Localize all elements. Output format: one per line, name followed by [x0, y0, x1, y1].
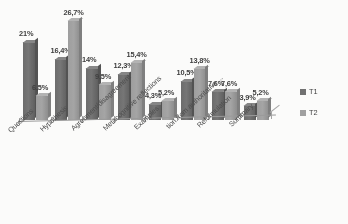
- legend-item-t2[interactable]: T2: [300, 109, 318, 116]
- bar-t2[interactable]: [68, 21, 80, 120]
- data-label: 26,7%: [64, 8, 84, 17]
- data-label: 5,2%: [253, 88, 269, 97]
- bar-group: 21%6,5%: [20, 16, 52, 120]
- legend-item-t1[interactable]: T1: [300, 88, 318, 95]
- bar-group: 4,3%5,2%: [146, 16, 178, 120]
- data-label: 5,2%: [158, 88, 174, 97]
- bar-t2[interactable]: [36, 96, 48, 120]
- plot-area: 21%6,5%16,4%26,7%14%9,5%12,3%15,4%4,3%5,…: [20, 16, 272, 120]
- data-label: 6,5%: [32, 83, 48, 92]
- bar-rect: [257, 101, 269, 120]
- bar-chart: 21%6,5%16,4%26,7%14%9,5%12,3%15,4%4,3%5,…: [0, 0, 348, 224]
- bar-rect: [68, 21, 80, 120]
- legend-item-label: T2: [309, 109, 318, 116]
- data-label: 15,4%: [127, 50, 147, 59]
- legend-item-label: T1: [309, 88, 318, 95]
- square-swatch-icon: [300, 110, 306, 116]
- bar-group: 16,4%26,7%: [52, 16, 84, 120]
- data-label: 13,8%: [190, 56, 210, 65]
- x-axis-tick: [271, 112, 272, 119]
- bar-rect: [36, 96, 48, 120]
- bar-t2[interactable]: [257, 101, 269, 120]
- data-label: 9,5%: [95, 72, 111, 81]
- chart-legend: T1 T2: [300, 88, 318, 131]
- data-label: 14%: [82, 55, 96, 64]
- square-swatch-icon: [300, 89, 306, 95]
- data-label: 21%: [19, 29, 33, 38]
